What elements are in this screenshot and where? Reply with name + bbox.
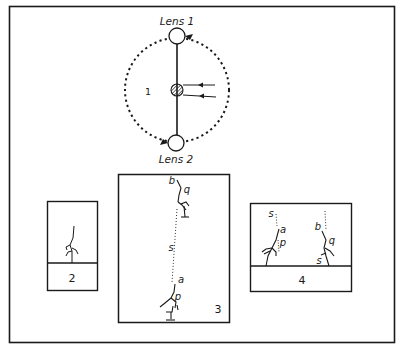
- figure-canvas: Lens 1 Lens 2 1 2: [0, 0, 401, 351]
- left-dotted-stem: [276, 214, 277, 226]
- label-a: a: [280, 224, 286, 235]
- label-p: p: [174, 291, 181, 302]
- panel-4: s a p b q s 4: [251, 204, 352, 292]
- label-s-right: s: [316, 255, 321, 266]
- lens-1-label: Lens 1: [160, 15, 194, 27]
- label-b: b: [169, 175, 175, 186]
- panel-1-number: 1: [145, 86, 151, 97]
- arrow-left-icon: [198, 83, 203, 88]
- lens-2-label: Lens 2: [159, 153, 194, 165]
- panel-2: 2: [48, 202, 98, 291]
- label-p: p: [279, 237, 286, 248]
- label-a: a: [178, 274, 184, 285]
- lower-plant-figure-icon: [160, 284, 178, 320]
- lens-2-icon: [168, 135, 184, 151]
- hatched-object-icon: [171, 84, 183, 96]
- label-s-left: s: [268, 208, 273, 219]
- label-b: b: [315, 221, 321, 232]
- panel-2-number: 2: [69, 272, 76, 285]
- left-plant-figure-icon: [262, 229, 279, 266]
- arrow-left-icon: [199, 94, 204, 99]
- plant-figure-icon: [66, 226, 78, 263]
- panel-3: b q s a p 3: [119, 175, 230, 323]
- label-q: q: [184, 184, 190, 195]
- label-s: s: [168, 242, 173, 253]
- panel-1-lens-diagram: Lens 1 Lens 2 1: [125, 15, 229, 165]
- panel-4-number: 4: [299, 274, 306, 287]
- right-dotted-stem: [325, 211, 326, 230]
- lens-1-icon: [169, 28, 185, 44]
- panel-3-number: 3: [215, 303, 222, 316]
- label-q: q: [329, 235, 335, 246]
